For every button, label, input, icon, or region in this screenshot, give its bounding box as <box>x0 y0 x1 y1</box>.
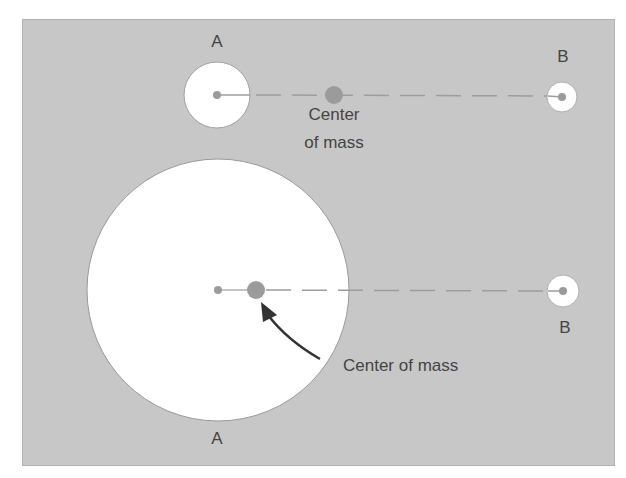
top-center-of-mass-label-line1: Center <box>308 106 359 123</box>
bottom-center-of-mass-label: Center of mass <box>343 357 458 374</box>
bottom-body-a-center-dot <box>214 286 222 294</box>
bottom-dashed-line <box>266 290 548 291</box>
top-body-b-center-dot <box>558 93 566 101</box>
top-label-a: A <box>211 33 222 50</box>
top-label-b: B <box>557 48 568 65</box>
center-of-mass-diagram <box>0 0 626 478</box>
bottom-body-b-center-dot <box>559 287 567 295</box>
top-system <box>184 62 577 128</box>
bottom-system <box>87 159 579 421</box>
top-dashed-line <box>256 95 548 96</box>
top-center-of-mass-dot <box>325 86 343 104</box>
bottom-label-b: B <box>559 319 570 336</box>
top-center-of-mass-label-line2: of mass <box>304 134 364 151</box>
top-body-a-center-dot <box>213 91 221 99</box>
bottom-label-a: A <box>211 430 222 447</box>
bottom-center-of-mass-dot <box>247 281 265 299</box>
